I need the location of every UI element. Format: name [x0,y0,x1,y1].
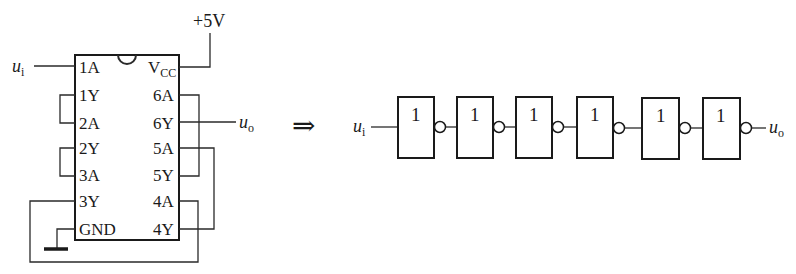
pin-3A: 3A [79,166,101,185]
ic-74-hex-inverter: 1A 1Y 2A 2Y 3A 3Y GND VCC 6A 6Y 5A 5Y 4A… [75,55,179,240]
pin-3Y: 3Y [79,192,100,211]
jumper-1Y-2A [60,95,75,123]
pin-5Y: 5Y [153,166,174,185]
chain-output-label: uo [769,117,784,140]
jumper-5A-4Y [179,148,214,229]
inversion-bubble-icon [614,123,625,134]
pin-4A: 4A [153,192,175,211]
inversion-bubble-icon [741,123,752,134]
inversion-bubble-icon [680,123,691,134]
inversion-bubble-icon [553,122,564,133]
chip-input-label: ui [12,56,25,79]
supply-label: +5V [193,11,225,31]
chip-output-label: uo [239,112,254,135]
pin-6A: 6A [153,86,175,105]
pin-1Y: 1Y [79,86,100,105]
pin-GND: GND [79,220,116,239]
pin-5A: 5A [153,139,175,158]
gate-6-symbol: 1 [716,105,726,126]
gnd-wire [57,229,75,248]
inversion-bubble-icon [435,122,446,133]
vcc-wire [179,33,210,67]
inversion-bubble-icon [494,122,505,133]
chain-input-label: ui [353,116,366,139]
gate-4-symbol: 1 [590,104,600,125]
equivalence-arrow: ⇒ [292,110,315,141]
inverter-chain: ui 1 1 1 1 1 1 uo [353,97,784,159]
jumper-6A-5Y [179,95,199,176]
pin-1A: 1A [79,58,101,77]
pin-2A: 2A [79,114,101,133]
circuit-diagram: 1A 1Y 2A 2Y 3A 3Y GND VCC 6A 6Y 5A 5Y 4A… [0,0,796,274]
gate-5-symbol: 1 [656,105,666,126]
gate-1-symbol: 1 [411,104,421,125]
jumper-2Y-3A [60,148,75,176]
gate-3-symbol: 1 [529,104,539,125]
pin-2Y: 2Y [79,139,100,158]
pin-6Y: 6Y [153,114,174,133]
pin-4Y: 4Y [153,220,174,239]
gate-2-symbol: 1 [470,104,480,125]
